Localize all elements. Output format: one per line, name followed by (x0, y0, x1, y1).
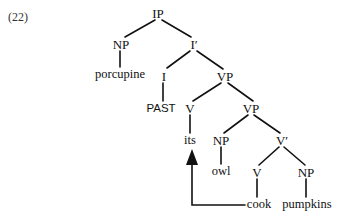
branch-ibar-i (167, 51, 190, 68)
branch-vp-np (224, 115, 248, 133)
syntax-tree-diagram: (22) IP NP porcupine I′ I PAST VP V its … (0, 0, 337, 217)
node-v-bar: V′ (276, 134, 288, 147)
node-i-bar: I′ (190, 38, 197, 51)
word-past: PAST (146, 102, 175, 115)
node-v-lower: V (252, 166, 261, 179)
node-i-head: I (162, 70, 166, 83)
branch-ip-np (125, 20, 155, 37)
word-pumpkins: pumpkins (282, 198, 331, 211)
branch-vp-vbar (254, 115, 280, 133)
branch-vp-v (193, 83, 221, 101)
branch-ibar-vp (197, 51, 223, 69)
example-number: (22) (8, 11, 28, 24)
word-porcupine: porcupine (95, 68, 145, 81)
branch-vp-vp (228, 83, 253, 101)
word-its: its (184, 134, 196, 147)
word-cook: cook (247, 198, 271, 211)
node-np-object2: NP (298, 166, 315, 179)
node-v-upper: V (185, 102, 194, 115)
node-np-object1: NP (213, 134, 230, 147)
node-vp-upper: VP (217, 70, 234, 83)
word-owl: owl (212, 165, 231, 178)
node-vp-lower: VP (243, 102, 260, 115)
branch-ip-ibar (162, 20, 191, 37)
node-np-subject: NP (113, 38, 130, 51)
node-ip: IP (152, 7, 164, 20)
branch-vbar-v (259, 147, 279, 165)
branch-vbar-np (284, 147, 305, 165)
arrow-up-icon (186, 149, 198, 165)
